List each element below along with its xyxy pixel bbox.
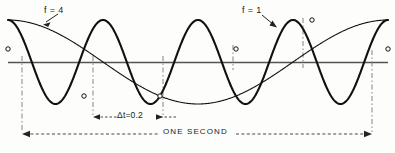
f4-leader — [43, 14, 58, 27]
f4-leader-line — [46, 14, 58, 22]
delta-t-arrow-left — [93, 114, 100, 120]
sample-point-3 — [234, 47, 238, 51]
one-second-arrow-left — [22, 131, 30, 137]
one-second-arrow-right — [364, 131, 372, 137]
label-frequency-4: f = 4 — [44, 5, 64, 15]
aliasing-figure: f = 4 f = 1 Δt=0.2 ONE SECOND — [0, 0, 395, 153]
delta-t-arrow-right — [156, 114, 163, 120]
sample-point-markers — [6, 18, 390, 98]
f4-leader-arrowhead — [43, 22, 51, 27]
f1-leader — [262, 15, 277, 28]
sample-point-1 — [82, 94, 86, 98]
sample-point-4 — [310, 18, 314, 22]
label-one-second: ONE SECOND — [163, 127, 228, 136]
sample-point-2 — [158, 94, 162, 98]
label-frequency-1: f = 1 — [242, 5, 262, 15]
sample-point-5 — [386, 47, 390, 51]
label-delta-t: Δt=0.2 — [117, 110, 143, 120]
sample-point-0 — [6, 47, 10, 51]
